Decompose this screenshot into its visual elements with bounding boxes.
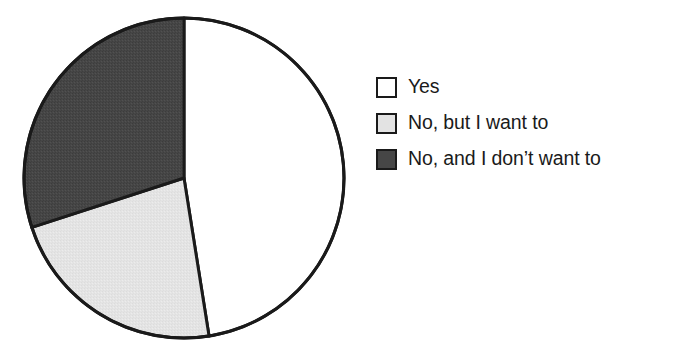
- pie-slice-yes[interactable]: [184, 18, 344, 336]
- pie-chart-area: [0, 0, 370, 356]
- legend-item-yes[interactable]: Yes: [376, 70, 676, 104]
- legend-label-no-and-i-dont-want-to: No, and I don’t want to: [408, 149, 601, 169]
- chart-legend: Yes No, but I want to No, and I don’t wa…: [376, 70, 676, 178]
- legend-swatch-yes: [376, 77, 397, 98]
- legend-swatch-no-and-dont-want: [376, 149, 397, 170]
- pie-chart-svg: [0, 0, 370, 356]
- legend-item-no-and-i-dont-want-to[interactable]: No, and I don’t want to: [376, 142, 676, 176]
- legend-swatch-no-but-want: [376, 113, 397, 134]
- legend-label-no-but-i-want-to: No, but I want to: [408, 113, 548, 133]
- legend-label-yes: Yes: [408, 77, 440, 97]
- pie-chart-figure: Yes No, but I want to No, and I don’t wa…: [0, 0, 683, 356]
- legend-item-no-but-i-want-to[interactable]: No, but I want to: [376, 106, 676, 140]
